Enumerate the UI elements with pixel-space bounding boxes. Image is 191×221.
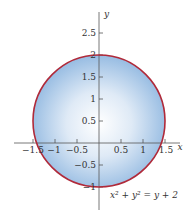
x-tick-label: −1.5 (22, 145, 44, 155)
y-tick-label: 1 (90, 94, 96, 104)
x-tick-label: 0.5 (114, 145, 129, 155)
y-tick-label: −0.5 (74, 160, 96, 170)
y-tick-label: −1 (83, 182, 96, 192)
y-axis-label: y (103, 9, 110, 19)
x-tick-label: 1.5 (159, 145, 174, 155)
equation-label: x² + y² = y + 2 (110, 190, 178, 200)
y-tick-label: 0.5 (82, 116, 97, 126)
x-axis-label: x (177, 142, 182, 152)
y-tick-label: 1.5 (82, 72, 97, 82)
x-tick-label: 1 (140, 145, 146, 155)
y-tick-label: 2.5 (82, 28, 97, 38)
y-tick-label: 2 (90, 50, 96, 60)
circle-plot: −1.5 −1 −0.5 0.5 1 1.5 2.5 2 1.5 1 0.5 −… (0, 0, 191, 221)
x-tick-label: −0.5 (66, 145, 88, 155)
x-tick-label: −1 (47, 145, 60, 155)
